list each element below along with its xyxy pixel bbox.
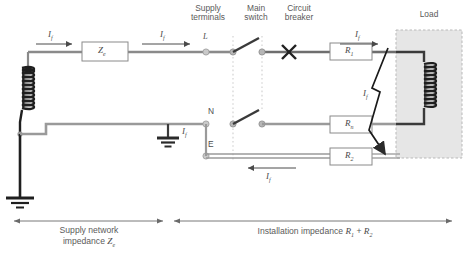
neutral-conductor-left <box>20 124 206 134</box>
main-switch-line-contact <box>259 49 265 55</box>
mid-earth-symbol <box>157 138 179 147</box>
fault-current-path <box>369 48 388 154</box>
header-supply-terminals: Supply terminals <box>181 4 235 23</box>
circuit-schematic <box>0 0 468 258</box>
source-earth-symbol <box>6 198 34 208</box>
caption-installation-line1: Installation impedance R1 + R2 <box>215 226 415 239</box>
main-switch-line-blade[interactable] <box>233 38 259 52</box>
r1-label: R1 <box>345 45 354 58</box>
circuit-breaker-line2: breaker <box>277 13 321 22</box>
caption-supply-line1: Supply network <box>34 226 144 236</box>
main-switch-line2: switch <box>238 13 274 22</box>
source-transformer-coil <box>22 67 34 109</box>
r2-label: R2 <box>345 150 354 163</box>
supply-terminal-L <box>203 49 209 55</box>
caption-supply-line2: impedance Ze <box>34 236 144 249</box>
current-label-ground: If <box>182 126 187 139</box>
header-circuit-breaker: Circuit breaker <box>277 4 321 23</box>
coil-bottom-lead <box>20 110 22 134</box>
current-label-top-left: If <box>48 29 53 42</box>
supply-terminals-line2: terminals <box>181 13 235 22</box>
current-label-bottom: If <box>266 171 271 184</box>
current-label-fault: If <box>363 88 368 101</box>
current-label-top-right: If <box>355 29 360 42</box>
current-label-top-mid: If <box>160 29 165 42</box>
header-main-switch: Main switch <box>238 4 274 23</box>
terminal-label-N: N <box>208 107 214 116</box>
terminal-label-E: E <box>208 140 214 149</box>
caption-supply-network: Supply network impedance Ze <box>34 226 144 248</box>
terminal-label-L: L <box>203 32 208 41</box>
rn-label: Rn <box>345 118 354 131</box>
diagram-canvas: Supply terminals Main switch Circuit bre… <box>0 0 468 258</box>
source-impedance-label: Ze <box>98 45 106 58</box>
load-label: Load <box>404 10 454 19</box>
header-load: Load <box>404 10 454 19</box>
caption-installation-impedance: Installation impedance R1 + R2 <box>215 226 415 239</box>
main-switch-neutral-blade[interactable] <box>233 110 259 124</box>
